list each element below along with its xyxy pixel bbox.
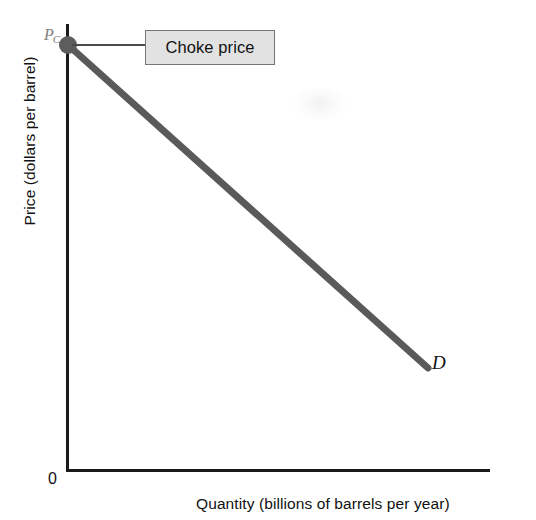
- callout-leader-line: [72, 44, 146, 46]
- choke-price-axis-label: PC: [44, 27, 60, 45]
- demand-curve-layer: [0, 0, 536, 520]
- demand-curve-label: D: [432, 352, 446, 374]
- demand-curve-line: [68, 45, 428, 368]
- choke-price-callout-label: Choke price: [165, 38, 254, 57]
- figure-canvas: Price (dollars per barrel) Quantity (bil…: [0, 0, 536, 520]
- choke-price-callout-box: Choke price: [145, 30, 275, 65]
